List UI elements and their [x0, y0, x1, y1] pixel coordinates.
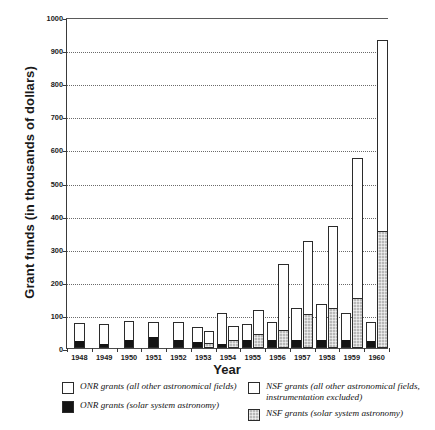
bar-onr	[267, 322, 278, 348]
bar-nsf	[352, 158, 363, 348]
year-group	[117, 19, 142, 348]
bar-onr	[291, 308, 302, 348]
bar-segment-onr-solar	[75, 341, 84, 347]
x-tick-label: 1953	[195, 353, 211, 362]
x-tick-mark	[216, 348, 217, 352]
bar-segment-nsf-solar	[254, 334, 263, 347]
bar-segment-nsf-solar	[205, 343, 214, 347]
legend-label: ONR grants (all other astronomical field…	[80, 381, 237, 392]
bar-onr	[148, 322, 159, 348]
bar-onr	[124, 321, 135, 348]
y-tick-label: 1000	[47, 14, 63, 23]
x-tick-mark	[92, 348, 93, 352]
year-group	[364, 19, 389, 348]
x-tick-mark	[389, 348, 390, 352]
y-tick-label: 100	[51, 312, 63, 321]
bar-onr	[99, 324, 110, 348]
year-group	[339, 19, 364, 348]
x-tick-label: 1957	[294, 353, 310, 362]
year-group	[191, 19, 216, 348]
bar-onr	[366, 322, 377, 348]
y-tick-label: 200	[51, 279, 63, 288]
bar-nsf	[328, 226, 339, 348]
year-group	[141, 19, 166, 348]
legend-item: ONR grants (all other astronomical field…	[62, 381, 252, 394]
bar-segment-onr-solar	[292, 340, 301, 347]
y-axis-title: Grant funds (in thousands of dollars)	[22, 58, 37, 308]
x-tick-label: 1959	[344, 353, 360, 362]
y-tick-label: 900	[51, 47, 63, 56]
x-tick-label: 1960	[368, 353, 384, 362]
bar-onr	[173, 322, 184, 348]
bar-onr	[217, 313, 228, 348]
bar-onr	[74, 323, 85, 348]
bar-nsf	[377, 40, 388, 348]
bar-segment-onr-solar	[367, 341, 376, 347]
x-tick-mark	[240, 348, 241, 352]
x-tick-mark	[364, 348, 365, 352]
bar-segment-onr-solar	[342, 340, 351, 347]
x-tick-label: 1948	[71, 353, 87, 362]
year-group	[315, 19, 340, 348]
y-tick-label: 0	[59, 345, 63, 354]
legend-item: NSF grants (all other astronomical field…	[248, 381, 433, 402]
x-tick-label: 1955	[245, 353, 261, 362]
bar-nsf	[303, 241, 314, 348]
bar-segment-nsf-solar	[279, 330, 288, 347]
legend-swatch-onr-solar-icon	[62, 401, 74, 413]
bar-onr	[316, 304, 327, 348]
year-group	[290, 19, 315, 348]
x-tick-label: 1952	[170, 353, 186, 362]
legend-swatch-nsf-solar-icon	[248, 409, 260, 421]
bar-segment-onr-solar	[268, 340, 277, 347]
x-tick-mark	[67, 348, 68, 352]
legend-label: ONR grants (solar system astronomy)	[80, 400, 219, 411]
bar-segment-nsf-solar	[378, 231, 387, 347]
y-tick-label: 400	[51, 213, 63, 222]
bar-segment-onr-solar	[218, 344, 227, 347]
legend-label: NSF grants (solar system astronomy)	[266, 408, 403, 419]
x-tick-label: 1951	[145, 353, 161, 362]
bar-segment-onr-solar	[317, 340, 326, 347]
y-tick-label: 600	[51, 147, 63, 156]
bar-segment-nsf-solar	[329, 308, 338, 347]
chart-legend: ONR grants (all other astronomical field…	[0, 381, 435, 430]
year-group	[216, 19, 241, 348]
x-tick-label: 1954	[220, 353, 236, 362]
plot-area: 01002003004005006007008009001000 1948194…	[66, 18, 388, 349]
x-tick-mark	[141, 348, 142, 352]
bar-nsf	[253, 310, 264, 348]
x-tick-label: 1956	[269, 353, 285, 362]
x-axis-title: Year	[66, 362, 388, 377]
x-tick-mark	[290, 348, 291, 352]
x-tick-mark	[265, 348, 266, 352]
bar-onr	[341, 313, 352, 348]
legend-swatch-nsf-other-icon	[248, 382, 260, 394]
bar-nsf	[204, 331, 215, 348]
legend-label: NSF grants (all other astronomical field…	[266, 381, 433, 402]
bar-nsf	[228, 326, 239, 349]
bar-segment-nsf-solar	[229, 340, 238, 347]
legend-item: ONR grants (solar system astronomy)	[62, 400, 252, 413]
bar-segment-onr-solar	[174, 340, 183, 347]
legend-swatch-onr-other-icon	[62, 382, 74, 394]
y-tick-label: 500	[51, 180, 63, 189]
x-tick-mark	[191, 348, 192, 352]
legend-column-nsf: NSF grants (all other astronomical field…	[248, 381, 433, 427]
bar-segment-onr-solar	[193, 342, 202, 347]
year-group	[92, 19, 117, 348]
year-group	[67, 19, 92, 348]
bar-nsf	[278, 264, 289, 348]
chart-figure: Grant funds (in thousands of dollars) 01…	[0, 0, 435, 430]
bar-segment-nsf-solar	[304, 314, 313, 347]
bar-onr	[242, 324, 253, 348]
bar-segment-onr-solar	[149, 337, 158, 347]
bar-segment-nsf-solar	[353, 298, 362, 347]
bar-segment-onr-solar	[243, 340, 252, 347]
bar-segment-onr-solar	[125, 340, 134, 347]
year-group	[240, 19, 265, 348]
x-tick-label: 1949	[96, 353, 112, 362]
bar-onr	[192, 327, 203, 348]
year-group	[265, 19, 290, 348]
year-group	[166, 19, 191, 348]
